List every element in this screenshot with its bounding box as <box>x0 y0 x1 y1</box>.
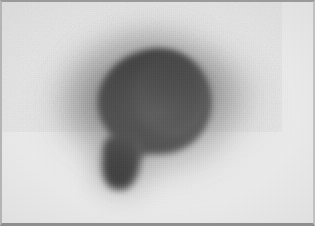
scan-image-field <box>2 2 313 223</box>
scan-figure: Grayscale scan showing a dense rounded m… <box>0 0 315 226</box>
